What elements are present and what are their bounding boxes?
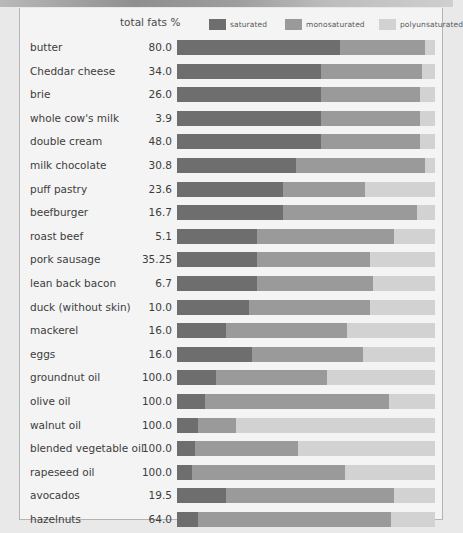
- segment-polyunsaturated: [425, 158, 435, 173]
- segment-saturated: [177, 394, 205, 409]
- segment-polyunsaturated: [370, 300, 435, 315]
- chart-row: roast beef5.1: [20, 225, 442, 249]
- chart-inner: total fats % saturated monosaturated pol…: [20, 8, 442, 519]
- row-value: 100.0: [118, 366, 172, 390]
- stacked-bar: [177, 64, 435, 79]
- segment-saturated: [177, 229, 257, 244]
- segment-polyunsaturated: [347, 323, 435, 338]
- segment-saturated: [177, 64, 321, 79]
- chart-row: walnut oil100.0: [20, 414, 442, 438]
- segment-polyunsaturated: [417, 205, 435, 220]
- segment-saturated: [177, 276, 257, 291]
- segment-polyunsaturated: [236, 418, 435, 433]
- row-label: beefburger: [30, 201, 88, 225]
- segment-saturated: [177, 347, 252, 362]
- chart-row: lean back bacon6.7: [20, 272, 442, 296]
- segment-saturated: [177, 111, 321, 126]
- row-value: 100.0: [118, 437, 172, 461]
- legend-swatch-monosaturated-icon: [285, 19, 302, 30]
- stacked-bar: [177, 418, 435, 433]
- stacked-bar: [177, 465, 435, 480]
- chart-row: milk chocolate30.8: [20, 154, 442, 178]
- row-label: puff pastry: [30, 178, 87, 202]
- chart-row: mackerel16.0: [20, 319, 442, 343]
- segment-monosaturated: [257, 229, 394, 244]
- row-label: milk chocolate: [30, 154, 106, 178]
- segment-monosaturated: [198, 512, 392, 527]
- legend-label-monosaturated: monosaturated: [306, 20, 365, 29]
- row-value: 80.0: [118, 36, 172, 60]
- segment-monosaturated: [216, 370, 327, 385]
- segment-saturated: [177, 252, 257, 267]
- stacked-bar: [177, 111, 435, 126]
- chart-row: beefburger16.7: [20, 201, 442, 225]
- stacked-bar: [177, 276, 435, 291]
- stacked-bar: [177, 347, 435, 362]
- stacked-bar: [177, 488, 435, 503]
- segment-monosaturated: [321, 64, 422, 79]
- chart-row: duck (without skin)10.0: [20, 296, 442, 320]
- row-value: 100.0: [118, 461, 172, 485]
- row-value: 26.0: [118, 83, 172, 107]
- row-value: 64.0: [118, 508, 172, 532]
- legend-item-polyunsaturated: polyunsaturated: [379, 17, 463, 31]
- row-value: 35.25: [118, 248, 172, 272]
- stacked-bar: [177, 205, 435, 220]
- stacked-bar: [177, 441, 435, 456]
- chart-header: total fats % saturated monosaturated pol…: [20, 14, 442, 36]
- stacked-bar: [177, 512, 435, 527]
- segment-polyunsaturated: [365, 182, 435, 197]
- segment-saturated: [177, 512, 198, 527]
- value-column-header: total fats %: [120, 16, 172, 28]
- legend-swatch-polyunsaturated-icon: [379, 19, 396, 30]
- legend-label-saturated: saturated: [230, 20, 267, 29]
- row-value: 48.0: [118, 130, 172, 154]
- legend-item-monosaturated: monosaturated: [285, 17, 365, 31]
- row-label: pork sausage: [30, 248, 100, 272]
- row-value: 16.0: [118, 343, 172, 367]
- row-label: mackerel: [30, 319, 78, 343]
- segment-polyunsaturated: [370, 252, 435, 267]
- segment-saturated: [177, 205, 283, 220]
- row-label: whole cow's milk: [30, 107, 119, 131]
- segment-polyunsaturated: [327, 370, 435, 385]
- segment-saturated: [177, 488, 226, 503]
- segment-monosaturated: [283, 205, 417, 220]
- segment-polyunsaturated: [373, 276, 435, 291]
- segment-monosaturated: [198, 418, 237, 433]
- chart-row: Cheddar cheese34.0: [20, 60, 442, 84]
- legend-swatch-saturated-icon: [209, 19, 226, 30]
- row-value: 100.0: [118, 414, 172, 438]
- segment-monosaturated: [205, 394, 388, 409]
- row-value: 30.8: [118, 154, 172, 178]
- chart-row: groundnut oil100.0: [20, 366, 442, 390]
- chart-row: puff pastry23.6: [20, 178, 442, 202]
- segment-monosaturated: [252, 347, 363, 362]
- segment-monosaturated: [321, 134, 419, 149]
- segment-monosaturated: [321, 87, 419, 102]
- segment-saturated: [177, 441, 195, 456]
- segment-saturated: [177, 40, 340, 55]
- chart-row: butter80.0: [20, 36, 442, 60]
- row-label: lean back bacon: [30, 272, 116, 296]
- segment-polyunsaturated: [420, 134, 435, 149]
- stacked-bar: [177, 300, 435, 315]
- row-label: double cream: [30, 130, 102, 154]
- row-value: 19.5: [118, 484, 172, 508]
- stacked-bar: [177, 252, 435, 267]
- segment-saturated: [177, 370, 216, 385]
- row-label: butter: [30, 36, 62, 60]
- segment-monosaturated: [296, 158, 425, 173]
- row-value: 3.9: [118, 107, 172, 131]
- segment-monosaturated: [195, 441, 298, 456]
- stacked-bar: [177, 40, 435, 55]
- row-label: rapeseed oil: [30, 461, 95, 485]
- stacked-bar: [177, 134, 435, 149]
- row-label: avocados: [30, 484, 80, 508]
- stacked-bar: [177, 182, 435, 197]
- stacked-bar: [177, 87, 435, 102]
- row-value: 10.0: [118, 296, 172, 320]
- segment-polyunsaturated: [425, 40, 435, 55]
- segment-polyunsaturated: [394, 488, 435, 503]
- chart-row: eggs16.0: [20, 343, 442, 367]
